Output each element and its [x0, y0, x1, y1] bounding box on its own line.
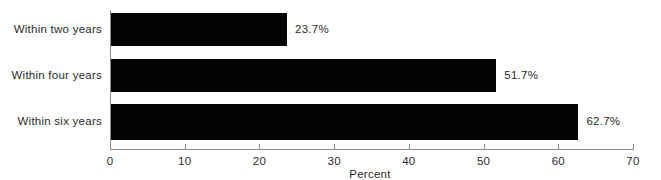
x-tick-40	[409, 144, 410, 149]
category-label-2: Within six years	[0, 115, 102, 127]
x-tick-0	[110, 144, 111, 149]
x-axis-title: Percent	[349, 168, 390, 180]
y-axis-line	[110, 10, 111, 150]
x-tick-label-40: 40	[402, 155, 415, 167]
x-tick-label-0: 0	[107, 155, 114, 167]
x-tick-50	[484, 144, 485, 149]
category-label-1: Within four years	[0, 69, 102, 81]
x-tick-60	[558, 144, 559, 149]
x-tick-10	[185, 144, 186, 149]
x-tick-70	[633, 144, 634, 149]
bar-within-four-years	[110, 59, 496, 92]
value-label-1: 51.7%	[504, 69, 538, 81]
x-tick-label-20: 20	[253, 155, 266, 167]
x-tick-label-30: 30	[327, 155, 340, 167]
category-label-0: Within two years	[0, 23, 102, 35]
bar-within-two-years	[110, 13, 287, 46]
x-tick-30	[334, 144, 335, 149]
x-tick-label-50: 50	[477, 155, 490, 167]
x-tick-20	[259, 144, 260, 149]
value-label-2: 62.7%	[586, 115, 620, 127]
value-label-0: 23.7%	[295, 23, 329, 35]
bar-chart: Within two years Within four years Withi…	[0, 0, 661, 180]
x-tick-label-60: 60	[552, 155, 565, 167]
x-tick-label-10: 10	[178, 155, 191, 167]
x-axis-line	[110, 149, 634, 150]
bar-within-six-years	[110, 104, 578, 140]
x-tick-label-70: 70	[626, 155, 639, 167]
